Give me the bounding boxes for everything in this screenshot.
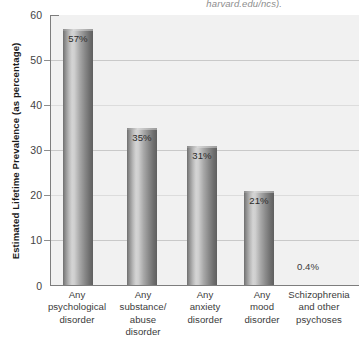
y-tick-label: 30 xyxy=(16,145,42,155)
chart-screenshot: harvard.edu/ncs). Estimated Lifetime Pre… xyxy=(0,0,362,340)
plot-area: 57% 35% 31% 21% 0.4% xyxy=(50,15,359,286)
y-tick-label: 40 xyxy=(16,100,42,110)
y-tick-label: 10 xyxy=(16,235,42,245)
bar-value-label-schizophrenia: 0.4% xyxy=(278,261,338,272)
x-label-schizophrenia-and-other-psychoses: Schizophrenia and other psychoses xyxy=(275,289,362,326)
bar-value-label: 35% xyxy=(127,132,157,143)
y-tick-label: 50 xyxy=(16,55,42,65)
bar-any-substance-abuse-disorder: 35% xyxy=(127,128,157,286)
gridline-50 xyxy=(51,60,359,61)
y-tick-label: 60 xyxy=(16,10,42,20)
bar-value-label: 57% xyxy=(63,33,93,44)
bar-any-mood-disorder: 21% xyxy=(244,191,274,286)
x-axis-line xyxy=(51,285,359,286)
source-caption: harvard.edu/ncs). xyxy=(0,0,282,8)
bar-value-label: 31% xyxy=(187,150,217,161)
bar-any-psychological-disorder: 57% xyxy=(63,29,93,287)
bar-any-anxiety-disorder: 31% xyxy=(187,146,217,286)
gridline-40 xyxy=(51,105,359,106)
y-tick-label: 20 xyxy=(16,190,42,200)
bar-value-label: 21% xyxy=(244,195,274,206)
x-axis-labels: Any psychological disorder Any substance… xyxy=(50,289,362,340)
